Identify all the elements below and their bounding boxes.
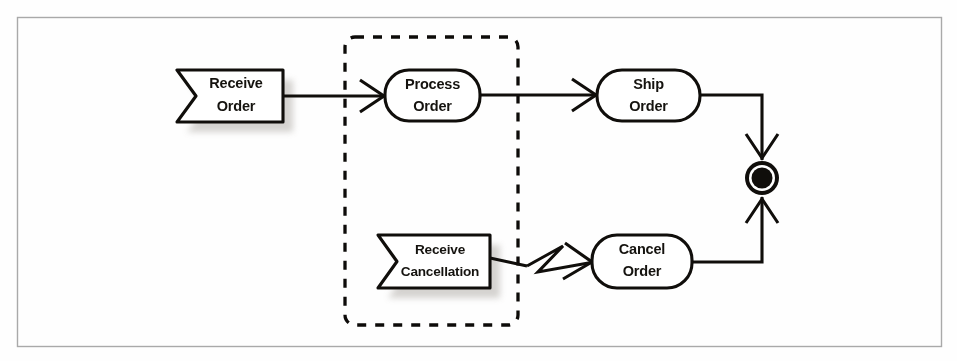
cancel-order-label-line1: Cancel bbox=[619, 241, 665, 257]
process-order-label-line1: Process bbox=[405, 76, 460, 92]
cancel-order-label-line2: Order bbox=[623, 263, 662, 279]
node-ship-order[interactable]: Ship Order bbox=[597, 70, 700, 121]
diagram-canvas: Receive Order Process Order Ship Order R… bbox=[0, 0, 957, 361]
edge-process-to-ship bbox=[480, 79, 599, 111]
process-order-label-line2: Order bbox=[413, 98, 452, 114]
receive-order-label-line1: Receive bbox=[209, 75, 263, 91]
receive-order-label-line2: Order bbox=[217, 98, 256, 114]
edge-cancellation-to-cancel bbox=[490, 243, 594, 279]
node-receive-order[interactable]: Receive Order bbox=[177, 70, 283, 122]
node-process-order[interactable]: Process Order bbox=[385, 70, 480, 121]
receive-cancellation-label-line2: Cancellation bbox=[401, 264, 479, 279]
node-activity-final[interactable] bbox=[745, 161, 779, 195]
edge-ship-to-final bbox=[700, 95, 778, 160]
activity-final-core bbox=[752, 168, 773, 189]
ship-order-label-line2: Order bbox=[629, 98, 668, 114]
node-cancel-order[interactable]: Cancel Order bbox=[592, 235, 692, 288]
edge-receive-to-process bbox=[283, 80, 387, 112]
receive-cancellation-label-line1: Receive bbox=[415, 242, 466, 257]
node-receive-cancellation[interactable]: Receive Cancellation bbox=[378, 235, 490, 288]
uml-activity-diagram: Receive Order Process Order Ship Order R… bbox=[0, 0, 957, 361]
edge-cancel-to-final bbox=[692, 197, 778, 262]
ship-order-label-line1: Ship bbox=[633, 76, 664, 92]
